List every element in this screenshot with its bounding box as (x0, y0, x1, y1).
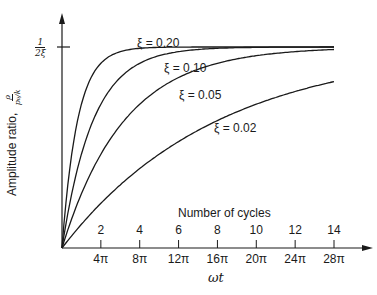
curve-label-xi-0.10: ξ = 0.10 (164, 62, 206, 74)
x2-axis-title: Number of cycles (178, 207, 271, 219)
tick-label-cycles: 6 (171, 224, 187, 236)
tick-label-omega-t: 8π (124, 253, 156, 265)
tick-label-cycles: 4 (132, 224, 148, 236)
tick-label-omega-t: 4π (85, 253, 117, 265)
tick-label-cycles: 8 (209, 224, 225, 236)
tick-label-cycles: 10 (248, 224, 264, 236)
chart-canvas (0, 0, 377, 295)
curve-label-xi-0.02: ξ = 0.02 (214, 122, 256, 134)
y-axis-label: Amplitude ratio, ρ p₀/k (3, 89, 22, 196)
curve-label-xi-0.05: ξ = 0.05 (179, 89, 221, 101)
curve-label-xi-0.20: ξ = 0.20 (137, 37, 179, 49)
ylabel-fraction: ρ p₀/k (3, 89, 22, 105)
tick-label-omega-t: 20π (240, 253, 272, 265)
tick-label-omega-t: 16π (201, 253, 233, 265)
tick-label-omega-t: 28π (318, 253, 350, 265)
ymax-label: 1 2ξ (35, 37, 46, 58)
x-axis-title: ωt (208, 271, 224, 284)
tick-label-omega-t: 12π (163, 253, 195, 265)
tick-label-cycles: 2 (93, 224, 109, 236)
tick-label-omega-t: 24π (279, 253, 311, 265)
x-axis-arrow-icon (362, 245, 373, 251)
y-axis-arrow-icon (59, 13, 65, 24)
x-axis-ticks (101, 240, 334, 248)
tick-label-cycles: 14 (326, 224, 342, 236)
tick-label-cycles: 12 (287, 224, 303, 236)
